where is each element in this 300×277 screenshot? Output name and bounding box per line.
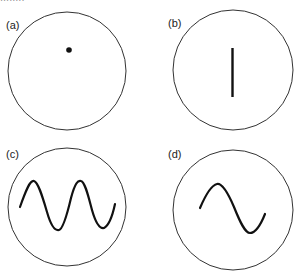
- panel-label-a: (a): [6, 19, 19, 31]
- panel-a: [8, 12, 126, 130]
- panel-label-b: (b): [168, 17, 181, 29]
- panel-d: [173, 150, 293, 270]
- sine-wave-one-cycle-icon: [200, 184, 265, 233]
- screen-circle-c: [8, 148, 126, 266]
- dot-icon: [66, 47, 72, 53]
- sine-wave-two-cycles-icon: [20, 181, 115, 230]
- screen-circle-d: [173, 150, 293, 270]
- figure: ........ (a) (b) (c) (d): [0, 0, 300, 277]
- panel-label-d: (d): [168, 148, 181, 160]
- figure-drawing: [0, 0, 300, 277]
- panel-b: [173, 10, 293, 130]
- screen-circle-a: [8, 12, 126, 130]
- panel-c: [8, 148, 126, 266]
- panel-label-c: (c): [6, 148, 19, 160]
